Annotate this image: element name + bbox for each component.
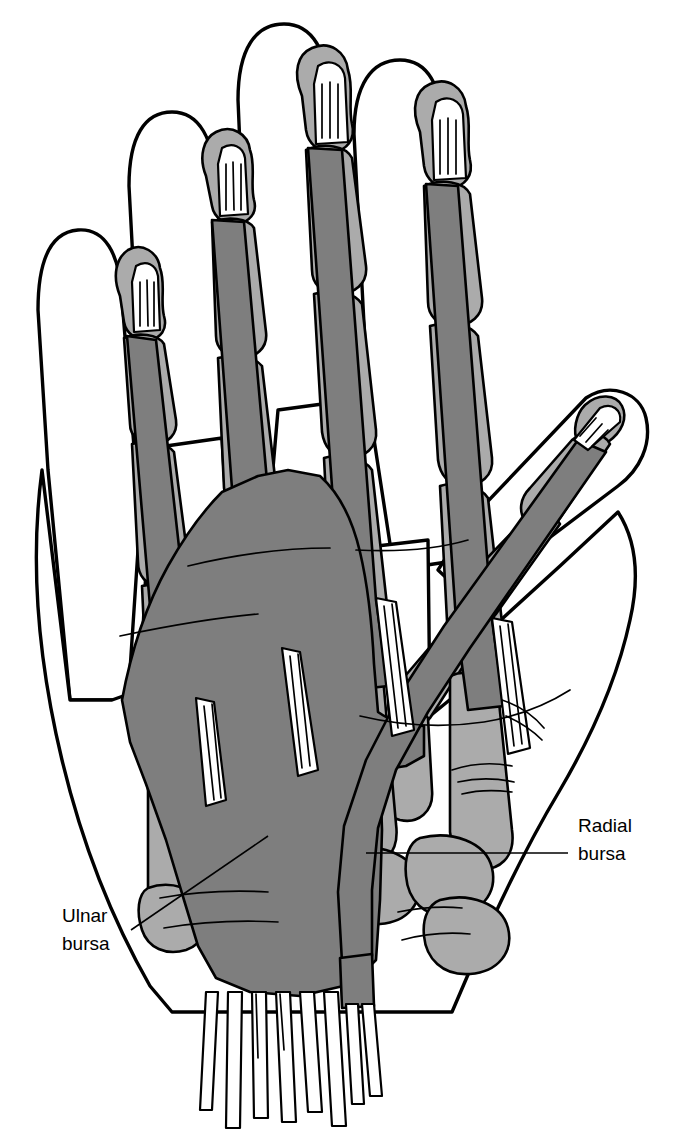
radial-bursa-label-line1: Radial bbox=[578, 815, 632, 836]
radial-bursa-wrist-segment bbox=[340, 954, 374, 1008]
hand-bursae-illustration: Radial bursa Ulnar bursa bbox=[0, 0, 682, 1142]
tendon-insertion-ring-finger bbox=[218, 145, 248, 216]
ulnar-bursa-label-line1: Ulnar bbox=[62, 905, 108, 926]
tendon-insertion-index-finger bbox=[432, 98, 466, 180]
tendon-insertion-little-finger bbox=[132, 263, 160, 332]
radial-bursa-label-line2: bursa bbox=[578, 843, 626, 864]
anatomy-figure: Radial bursa Ulnar bursa bbox=[0, 0, 682, 1142]
tendon-insertion-middle-finger bbox=[314, 62, 348, 144]
ulnar-bursa-label-line2: bursa bbox=[62, 933, 110, 954]
